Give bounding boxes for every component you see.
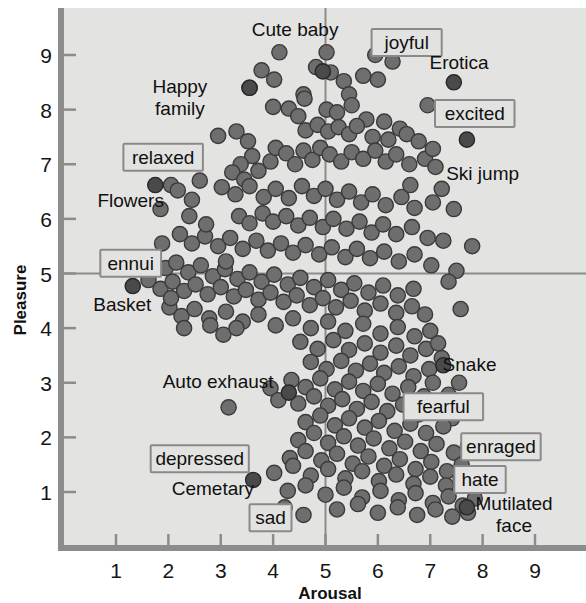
data-point [350, 496, 365, 511]
data-point [329, 446, 344, 461]
data-point [407, 329, 422, 344]
data-point [424, 258, 439, 273]
x-tick-label: 7 [424, 559, 436, 582]
data-point [218, 254, 233, 269]
data-point [170, 183, 185, 198]
data-point [335, 392, 350, 407]
y-tick-label: 1 [40, 481, 52, 504]
data-point [389, 338, 404, 353]
data-point [428, 159, 443, 174]
y-tick-label: 4 [40, 317, 52, 340]
data-point [336, 480, 351, 495]
data-point [451, 375, 466, 390]
data-point [263, 285, 278, 300]
data-point [302, 210, 317, 225]
data-point [268, 318, 283, 333]
data-point [349, 241, 364, 256]
data-point [425, 141, 440, 156]
data-point [357, 336, 372, 351]
y-axis-spine [58, 8, 64, 551]
data-point [334, 353, 349, 368]
data-point [321, 272, 336, 287]
data-point [403, 348, 418, 363]
term-label-text: hate [462, 469, 499, 490]
data-point [377, 114, 392, 129]
data-point [356, 68, 371, 83]
data-point [163, 290, 178, 305]
highlighted-data-point [446, 75, 461, 90]
data-point [389, 305, 404, 320]
data-point [263, 154, 278, 169]
data-point [420, 230, 435, 245]
data-point [390, 288, 405, 303]
data-point [406, 281, 421, 296]
data-point [391, 359, 406, 374]
data-point [389, 467, 404, 482]
data-point [376, 217, 391, 232]
data-point [296, 507, 311, 522]
y-tick-label: 3 [40, 372, 52, 395]
picture-label-text: Mutilated [475, 493, 552, 514]
data-point [407, 200, 422, 215]
picture-label-text: Flowers [97, 190, 164, 211]
picture-label-text: Auto exhaust [163, 371, 275, 392]
data-point [341, 184, 356, 199]
highlighted-data-point [125, 278, 140, 293]
picture-label-text: face [496, 515, 532, 536]
data-point [235, 241, 250, 256]
data-point [389, 227, 404, 242]
data-point [318, 487, 333, 502]
data-point [347, 276, 362, 291]
data-point [370, 505, 385, 520]
y-tick-label: 6 [40, 208, 52, 231]
data-point [429, 436, 444, 451]
data-point [417, 307, 432, 322]
data-point [465, 239, 480, 254]
data-point [431, 336, 446, 351]
data-point [291, 109, 306, 124]
data-point [378, 198, 393, 213]
data-point [306, 425, 321, 440]
data-point [377, 244, 392, 259]
data-point [355, 464, 370, 479]
data-point [392, 452, 407, 467]
data-point [329, 105, 344, 120]
picture-label-text: Happy [152, 76, 207, 97]
term-label-text: relaxed [132, 147, 194, 168]
term-label-text: sad [255, 507, 286, 528]
data-point [303, 321, 318, 336]
term-label-text: depressed [155, 448, 244, 469]
data-point [285, 311, 300, 326]
data-point [218, 304, 233, 319]
data-point [223, 230, 238, 245]
data-point [341, 411, 356, 426]
data-point [280, 483, 295, 498]
data-point [453, 301, 468, 316]
x-tick-label: 4 [267, 559, 279, 582]
data-point [344, 98, 359, 113]
data-point [184, 192, 199, 207]
data-point [213, 280, 228, 295]
data-point [187, 301, 202, 316]
highlighted-data-point [315, 64, 330, 79]
data-point [439, 464, 454, 479]
data-point [365, 187, 380, 202]
x-tick-label: 1 [110, 559, 122, 582]
term-label-text: joyful [384, 32, 429, 53]
data-point [402, 157, 417, 172]
data-point [272, 45, 287, 60]
highlighted-data-point [459, 500, 474, 515]
data-point [298, 238, 313, 253]
data-point [398, 434, 413, 449]
y-tick-label: 8 [40, 99, 52, 122]
data-point [293, 270, 308, 285]
data-point [267, 465, 282, 480]
data-point [425, 195, 440, 210]
x-tick-label: 9 [529, 559, 541, 582]
data-point [445, 509, 460, 524]
data-point [297, 91, 312, 106]
data-point [423, 469, 438, 484]
data-point [240, 134, 255, 149]
data-point [293, 334, 308, 349]
data-point [321, 314, 336, 329]
